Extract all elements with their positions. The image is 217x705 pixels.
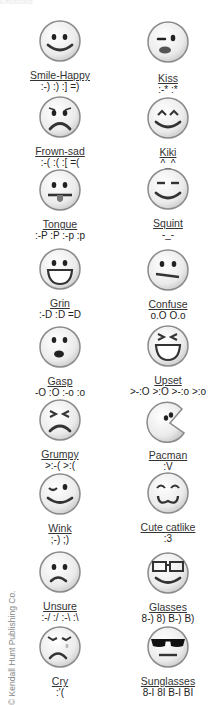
emoticon-name: Gasp bbox=[10, 375, 110, 387]
upset-face-icon bbox=[146, 324, 190, 368]
cute-catlike-face-icon bbox=[146, 471, 190, 515]
emoticon-codes: :-* :* bbox=[118, 84, 217, 96]
emoticon-grin: Grin :-D :D =D bbox=[10, 247, 110, 321]
kiss-face-icon bbox=[146, 20, 190, 64]
emoticon-name: Frown-sad bbox=[10, 145, 110, 157]
emoticon-confuse: Confuse o.O O.o bbox=[118, 248, 217, 322]
squint-face-icon bbox=[146, 167, 190, 211]
emoticon-wink: Wink ;-) ;) bbox=[10, 472, 110, 546]
emoticon-codes: :-P :P :-p :p bbox=[10, 230, 110, 242]
glasses-face-icon bbox=[146, 551, 190, 595]
wink-face-icon bbox=[38, 472, 82, 516]
smile-happy-face-icon bbox=[38, 19, 82, 63]
pacman-face-icon bbox=[146, 399, 190, 443]
emoticon-name: Smile-Happy bbox=[10, 69, 110, 81]
frown-sad-face-icon bbox=[38, 95, 82, 139]
emoticon-sunglasses: Sunglasses 8-I 8I B-I BI bbox=[118, 625, 217, 699]
emoticon-name: Grumpy bbox=[10, 448, 110, 460]
emoticon-name: Kiki bbox=[118, 146, 217, 158]
emoticon-name: Confuse bbox=[118, 298, 217, 310]
emoticon-codes: -_- bbox=[118, 229, 217, 241]
emoticon-name: Kiss bbox=[118, 72, 217, 84]
sunglasses-face-icon bbox=[146, 625, 190, 669]
emoticon-codes: :-D :D =D bbox=[10, 309, 110, 321]
emoticon-unsure: Unsure :-/ :/ :-\ :\ bbox=[10, 550, 110, 624]
emoticon-pacman: Pacman :V bbox=[118, 399, 217, 473]
confuse-face-icon bbox=[146, 248, 190, 292]
emoticon-name: Sunglasses bbox=[118, 675, 217, 687]
unsure-face-icon bbox=[38, 550, 82, 594]
emoticon-smile-happy: Smile-Happy :-) :) :] =) bbox=[10, 19, 110, 93]
grumpy-face-icon bbox=[38, 398, 82, 442]
emoticon-upset: Upset >-:O >:O >-:o >:o bbox=[118, 324, 217, 398]
emoticon-codes: :-/ :/ :-\ :\ bbox=[10, 612, 110, 624]
kiki-face-icon bbox=[146, 96, 190, 140]
emoticon-tongue: Tongue :-P :P :-p :p bbox=[10, 168, 110, 242]
emoticon-name: Grin bbox=[10, 297, 110, 309]
gasp-face-icon bbox=[38, 325, 82, 369]
emoticon-name: Tongue bbox=[10, 218, 110, 230]
cry-face-icon bbox=[38, 625, 82, 669]
emoticon-name: Upset bbox=[118, 374, 217, 386]
emoticon-name: Squint bbox=[118, 217, 217, 229]
emoticon-squint: Squint -_- bbox=[118, 167, 217, 241]
emoticon-glasses: Glasses 8-) 8) B-) B) bbox=[118, 551, 217, 625]
emoticon-kiss: Kiss :-* :* bbox=[118, 20, 217, 96]
emoticon-name: Cry bbox=[10, 675, 110, 687]
emoticon-codes: >:-( >:( bbox=[10, 460, 110, 472]
emoticon-cute-catlike: Cute catlike :3 bbox=[118, 471, 217, 545]
emoticon-name: Wink bbox=[10, 522, 110, 534]
tongue-face-icon bbox=[38, 168, 82, 212]
grin-face-icon bbox=[38, 247, 82, 291]
emoticon-codes: o.O O.o bbox=[118, 310, 217, 322]
emoticon-gasp: Gasp -O :O :-o :o bbox=[10, 325, 110, 399]
emoticon-name: Pacman bbox=[118, 449, 217, 461]
emoticon-name: Glasses bbox=[118, 601, 217, 613]
emoticon-name: Cute catlike bbox=[118, 521, 217, 533]
emoticon-kiki: Kiki ^_^ bbox=[118, 96, 217, 170]
header-title-remnant: Emoticons bbox=[0, 0, 55, 4]
emoticon-codes: ;-) ;) bbox=[10, 534, 110, 546]
emoticon-cry: Cry :'( bbox=[10, 625, 110, 699]
emoticon-codes: 8-I 8I B-I BI bbox=[118, 687, 217, 699]
copyright-credit: © Kendall Hunt Publishing Co. bbox=[7, 565, 17, 705]
emoticon-grumpy: Grumpy >:-( >:( bbox=[10, 398, 110, 472]
emoticon-codes: :'( bbox=[10, 687, 110, 699]
emoticon-codes: :-) :) :] =) bbox=[10, 81, 110, 93]
emoticon-codes: 8-) 8) B-) B) bbox=[118, 613, 217, 625]
emoticon-codes: >-:O >:O >-:o >:o bbox=[118, 386, 217, 398]
emoticon-codes: :3 bbox=[118, 533, 217, 545]
emoticon-name: Unsure bbox=[10, 600, 110, 612]
emoticon-frown-sad: Frown-sad :-( :( :[ =( bbox=[10, 95, 110, 169]
